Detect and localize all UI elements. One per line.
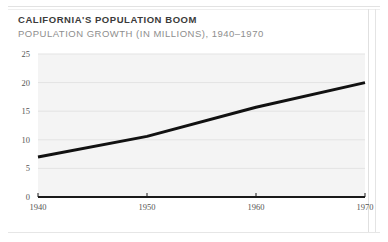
plot-area-wrapper: 0510152025 1940195019601970 <box>0 44 388 229</box>
x-tick-label: 1950 <box>139 202 156 212</box>
y-axis-tick-labels: 0510152025 <box>22 49 31 202</box>
bottom-divider-rule <box>8 232 380 233</box>
y-tick-label: 15 <box>22 106 31 116</box>
y-tick-label: 25 <box>22 49 31 59</box>
y-tick-label: 20 <box>22 78 31 88</box>
chart-figure: CALIFORNIA'S POPULATION BOOM POPULATION … <box>0 0 388 242</box>
x-tick-label: 1970 <box>357 202 374 212</box>
y-tick-label: 5 <box>26 163 30 173</box>
chart-title: CALIFORNIA'S POPULATION BOOM <box>18 14 197 25</box>
x-tick-label: 1940 <box>30 202 47 212</box>
chart-subtitle: POPULATION GROWTH (IN MILLIONS), 1940–19… <box>18 28 264 39</box>
x-tick-label: 1960 <box>248 202 265 212</box>
y-tick-label: 10 <box>22 135 31 145</box>
top-divider-rule-secondary <box>8 9 380 10</box>
plot-background-group <box>38 54 365 197</box>
top-divider-rule <box>8 6 380 7</box>
plot-background <box>38 54 365 197</box>
y-tick-label: 0 <box>26 192 30 202</box>
x-axis-tick-labels: 1940195019601970 <box>30 202 374 212</box>
line-chart-svg: 0510152025 1940195019601970 <box>0 44 388 229</box>
